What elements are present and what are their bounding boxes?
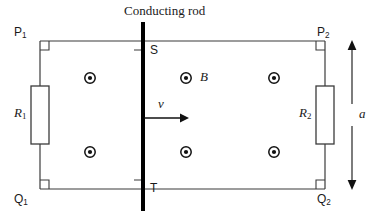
contact-label-t: T (150, 182, 157, 194)
dimension-label-a: a (359, 107, 366, 120)
resistor-label-r1: R1 (14, 106, 26, 121)
corner-marker-p1 (40, 41, 49, 50)
node-label-p2-subscript: 2 (325, 31, 330, 40)
node-label-q1: Q1 (14, 193, 28, 207)
node-label-p1: P1 (14, 26, 27, 40)
node-label-p1-letter: P (14, 25, 22, 39)
corner-marker-q2 (316, 180, 325, 189)
contact-label-s: S (150, 44, 158, 56)
physics-diagram: Conducting rod P1 P2 Q1 Q2 S T R1 R2 B v… (0, 0, 377, 223)
resistor-label-r2: R2 (299, 106, 311, 121)
diagram-title: Conducting rod (124, 4, 205, 17)
node-label-q1-subscript: 1 (23, 198, 28, 207)
node-label-q2: Q2 (317, 193, 331, 207)
node-label-p2-letter: P (317, 25, 325, 39)
node-label-q2-subscript: 2 (326, 198, 331, 207)
node-label-q1-letter: Q (14, 192, 23, 206)
field-dot (181, 147, 191, 157)
field-dot (85, 147, 95, 157)
node-label-q2-letter: Q (317, 192, 326, 206)
field-dot (269, 147, 279, 157)
node-label-p2: P2 (317, 26, 330, 40)
resistor-r2-box (316, 86, 334, 144)
resistor-label-r1-letter: R (14, 105, 22, 120)
corner-marker-p2 (316, 41, 325, 50)
field-dot (269, 73, 279, 83)
resistor-label-r1-subscript: 1 (22, 111, 26, 121)
field-dot (85, 73, 95, 83)
corner-marker-q1 (40, 180, 49, 189)
field-dot (181, 73, 191, 83)
velocity-label: v (158, 97, 164, 110)
resistor-r1-box (31, 86, 49, 144)
resistor-label-r2-letter: R (299, 105, 307, 120)
node-label-p1-subscript: 1 (22, 31, 27, 40)
dimension-arrow-a (348, 40, 357, 190)
magnetic-field-label: B (200, 70, 208, 83)
velocity-arrow (144, 113, 189, 122)
resistor-label-r2-subscript: 2 (307, 111, 311, 121)
